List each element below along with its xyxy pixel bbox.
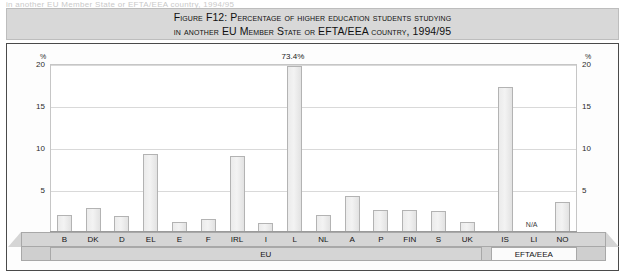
bar-nl	[316, 215, 331, 232]
figure-container: in another EU Member State or EFTA/EEA c…	[0, 0, 625, 278]
group-band-efta-eea: EFTA/EEA	[491, 247, 577, 261]
bar-rect-irl	[230, 156, 245, 232]
y-tick-left-20: 20	[23, 60, 45, 69]
x-label-uk: UK	[453, 232, 482, 247]
x-label-e: E	[165, 232, 194, 247]
figure-title-band: Figure F12: Percentage of higher educati…	[6, 8, 619, 40]
bar-el	[143, 154, 158, 232]
y-axis-unit-left: %	[40, 53, 46, 60]
peak-value-label: 73.4%	[282, 52, 305, 61]
bar-no	[555, 202, 570, 232]
x-label-p: P	[367, 232, 396, 247]
x-label-li: LI	[519, 232, 548, 247]
bar-rect-s	[431, 211, 446, 232]
y-tick-right-20: 20	[582, 60, 604, 69]
bar-rect-p	[373, 210, 388, 232]
bar-l	[287, 66, 302, 232]
x-label-s: S	[424, 232, 453, 247]
bar-rect-b	[57, 215, 72, 232]
bar-s	[431, 211, 446, 232]
chart-frame: % % 20 15 10 5 20 15 10 5 73.4%N/A BDKDE…	[6, 43, 619, 271]
bar-dk	[86, 208, 101, 232]
x-label-i: I	[251, 232, 280, 247]
bar-rect-a	[345, 196, 360, 232]
bar-is	[498, 87, 513, 232]
x-label-nl: NL	[309, 232, 338, 247]
bar-rect-dk	[86, 208, 101, 232]
x-label-el: EL	[136, 232, 165, 247]
y-tick-right-15: 15	[582, 102, 604, 111]
x-label-d: D	[108, 232, 137, 247]
bar-rect-l	[287, 66, 302, 232]
platform-right-bevel	[606, 232, 619, 247]
bar-d	[114, 216, 129, 232]
y-tick-right-10: 10	[582, 144, 604, 153]
y-tick-right-5: 5	[582, 186, 604, 195]
y-tick-left-10: 10	[23, 144, 45, 153]
y-tick-left-5: 5	[23, 186, 45, 195]
x-label-no: NO	[548, 232, 577, 247]
y-axis-unit-right: %	[585, 53, 591, 60]
bar-fin	[402, 210, 417, 232]
bar-a	[345, 196, 360, 232]
platform-left-bevel	[8, 232, 21, 247]
figure-title-line-2: in another EU Member State or EFTA/EEA c…	[174, 24, 451, 38]
x-label-dk: DK	[79, 232, 108, 247]
bar-p	[373, 210, 388, 232]
bar-b	[57, 215, 72, 232]
x-label-b: B	[50, 232, 79, 247]
x-label-l: L	[280, 232, 309, 247]
bar-rect-el	[143, 154, 158, 232]
page-bleed-text: in another EU Member State or EFTA/EEA c…	[6, 0, 306, 8]
bar-irl	[230, 156, 245, 232]
bar-rect-is	[498, 87, 513, 232]
group-band-eu: EU	[50, 247, 482, 261]
x-label-a: A	[338, 232, 367, 247]
x-label-f: F	[194, 232, 223, 247]
bar-series: 73.4%N/A	[50, 64, 577, 232]
x-label-fin: FIN	[395, 232, 424, 247]
bar-rect-fin	[402, 210, 417, 232]
x-label-is: IS	[491, 232, 520, 247]
y-tick-left-15: 15	[23, 102, 45, 111]
bar-rect-no	[555, 202, 570, 232]
figure-title-line-1: Figure F12: Percentage of higher educati…	[174, 10, 452, 24]
bar-rect-d	[114, 216, 129, 232]
na-label-li: N/A	[526, 221, 538, 228]
x-label-irl: IRL	[223, 232, 252, 247]
bar-rect-nl	[316, 215, 331, 232]
